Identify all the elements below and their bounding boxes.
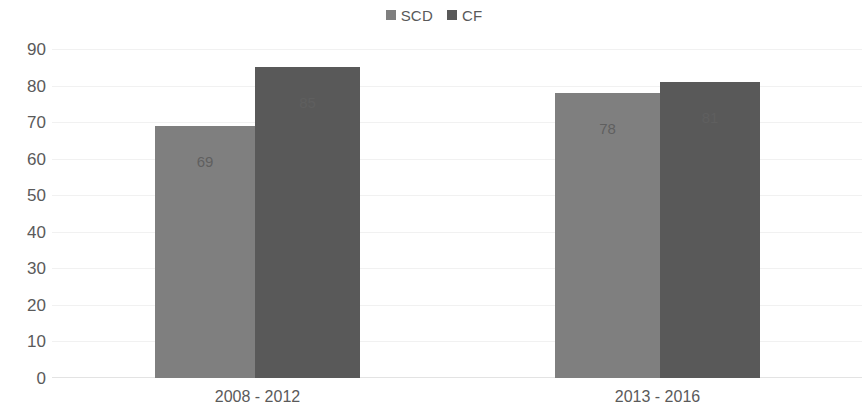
- bar-cf-2013-2016[interactable]: 81: [660, 82, 760, 378]
- bar-value-label: 69: [155, 154, 255, 169]
- square-swatch-icon: [447, 10, 457, 20]
- plot-area: 69 85 78 81: [52, 49, 862, 378]
- bar-value-label: 81: [660, 110, 760, 125]
- y-tick-label: 50: [6, 187, 46, 204]
- y-tick-label: 20: [6, 296, 46, 313]
- y-tick-label: 10: [6, 333, 46, 350]
- y-tick-label: 40: [6, 223, 46, 240]
- y-tick-label: 90: [6, 41, 46, 58]
- y-axis: 90 80 70 60 50 40 30 20 10 0: [0, 49, 46, 378]
- y-tick-label: 30: [6, 260, 46, 277]
- x-tick-label-2008-2012: 2008 - 2012: [155, 389, 360, 405]
- legend-entry-scd[interactable]: SCD: [386, 8, 433, 23]
- bar-value-label: 85: [255, 95, 360, 110]
- y-tick-label: 80: [6, 77, 46, 94]
- bar-chart: SCD CF 90 80 70 60 50 40 30 20 10 0 69: [0, 0, 868, 419]
- legend-label-cf: CF: [462, 8, 482, 23]
- legend-entry-cf[interactable]: CF: [447, 8, 482, 23]
- chart-legend: SCD CF: [0, 4, 868, 26]
- legend-label-scd: SCD: [401, 8, 433, 23]
- bar-scd-2013-2016[interactable]: 78: [555, 93, 660, 378]
- gridline: [52, 49, 862, 50]
- y-tick-label: 60: [6, 150, 46, 167]
- y-tick-label: 70: [6, 114, 46, 131]
- square-swatch-icon: [386, 10, 396, 20]
- bar-value-label: 78: [555, 121, 660, 136]
- x-tick-label-2013-2016: 2013 - 2016: [555, 389, 760, 405]
- bar-cf-2008-2012[interactable]: 85: [255, 67, 360, 378]
- y-tick-label: 0: [6, 370, 46, 387]
- bar-scd-2008-2012[interactable]: 69: [155, 126, 255, 378]
